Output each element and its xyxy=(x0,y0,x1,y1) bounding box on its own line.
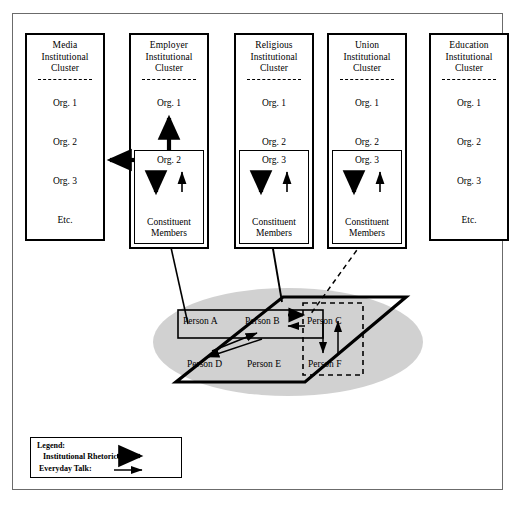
person-d-label: Person D xyxy=(187,359,222,369)
cluster-education-title: Education Institutional Cluster xyxy=(431,35,507,75)
cluster-media-etc: Etc. xyxy=(27,215,103,225)
cluster-employer-title-line3: Cluster xyxy=(131,63,207,75)
cluster-religious-org-1: Org. 1 xyxy=(236,98,312,108)
cluster-education-etc: Etc. xyxy=(431,215,507,225)
employer-constituent-members-label: Constituent Members xyxy=(135,217,203,239)
employer-constituent-box[interactable]: Org. 2 Constituent Members xyxy=(134,150,204,244)
cluster-union-separator xyxy=(340,79,393,80)
union-members-line1: Constituent xyxy=(333,217,401,228)
cluster-employer-title-line2: Institutional xyxy=(131,52,207,64)
cluster-education-org-1: Org. 1 xyxy=(431,98,507,108)
cluster-employer-separator xyxy=(142,79,195,80)
cluster-media-title: Media Institutional Cluster xyxy=(27,35,103,75)
cluster-religious-title-line3: Cluster xyxy=(236,63,312,75)
union-constituent-box[interactable]: Org. 3 Constituent Members xyxy=(332,150,402,244)
cluster-education-title-line2: Institutional xyxy=(431,52,507,64)
religious-constituent-box[interactable]: Org. 3 Constituent Members xyxy=(239,150,309,244)
union-constituent-members-label: Constituent Members xyxy=(333,217,401,239)
cluster-education-title-line3: Cluster xyxy=(431,63,507,75)
cluster-union-title-line1: Union xyxy=(329,40,405,52)
cluster-media[interactable]: Media Institutional Cluster Org. 1 Org. … xyxy=(25,33,105,241)
religious-constituent-members-label: Constituent Members xyxy=(240,217,308,239)
legend-box: Legend: Institutional Rhetoric: Everyday… xyxy=(30,437,182,478)
union-inner-org-label: Org. 3 xyxy=(333,155,401,165)
cluster-media-separator xyxy=(38,79,91,80)
cluster-media-org-3: Org. 3 xyxy=(27,176,103,186)
cluster-education-org-3: Org. 3 xyxy=(431,176,507,186)
cluster-religious-org-2: Org. 2 xyxy=(236,137,312,147)
cluster-employer-title-line1: Employer xyxy=(131,40,207,52)
cluster-union-org-2: Org. 2 xyxy=(329,137,405,147)
cluster-media-title-line2: Institutional xyxy=(27,52,103,64)
cluster-religious-title: Religious Institutional Cluster xyxy=(236,35,312,75)
cluster-employer-title: Employer Institutional Cluster xyxy=(131,35,207,75)
cluster-education[interactable]: Education Institutional Cluster Org. 1 O… xyxy=(429,33,509,241)
cluster-union-title-line2: Institutional xyxy=(329,52,405,64)
legend-everyday-talk-label: Everyday Talk: xyxy=(39,464,92,473)
cluster-religious-separator xyxy=(247,79,300,80)
person-c-label: Person C xyxy=(307,316,342,326)
cluster-union-org-1: Org. 1 xyxy=(329,98,405,108)
religious-members-line1: Constituent xyxy=(240,217,308,228)
religious-inner-org-label: Org. 3 xyxy=(240,155,308,165)
cluster-media-title-line3: Cluster xyxy=(27,63,103,75)
cluster-education-title-line1: Education xyxy=(431,40,507,52)
union-members-line2: Members xyxy=(333,228,401,239)
employer-members-line2: Members xyxy=(135,228,203,239)
legend-institutional-rhetoric-label: Institutional Rhetoric: xyxy=(43,452,120,461)
cluster-union-title-line3: Cluster xyxy=(329,63,405,75)
cluster-union-title: Union Institutional Cluster xyxy=(329,35,405,75)
person-a-label: Person A xyxy=(183,316,218,326)
person-e-label: Person E xyxy=(247,359,281,369)
cluster-education-org-2: Org. 2 xyxy=(431,137,507,147)
person-b-label: Person B xyxy=(245,316,280,326)
legend-title: Legend: xyxy=(37,441,65,450)
cluster-media-title-line1: Media xyxy=(27,40,103,52)
religious-members-line2: Members xyxy=(240,228,308,239)
figure-root: Media Institutional Cluster Org. 1 Org. … xyxy=(0,0,515,507)
cluster-education-separator xyxy=(442,79,495,80)
cluster-employer-org-1: Org. 1 xyxy=(131,98,207,108)
cluster-religious-title-line2: Institutional xyxy=(236,52,312,64)
cluster-religious-title-line1: Religious xyxy=(236,40,312,52)
person-f-label: Person F xyxy=(308,359,342,369)
cluster-media-org-2: Org. 2 xyxy=(27,137,103,147)
cluster-media-org-1: Org. 1 xyxy=(27,98,103,108)
employer-inner-org-label: Org. 2 xyxy=(135,155,203,165)
employer-members-line1: Constituent xyxy=(135,217,203,228)
